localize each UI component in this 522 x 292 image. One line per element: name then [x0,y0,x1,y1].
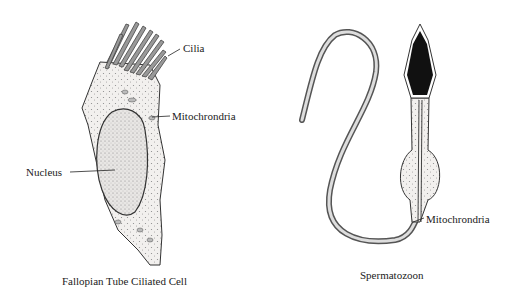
diagram-artwork [0,0,522,292]
label-mitochondria-cell: Mitochrondria [172,111,236,122]
ciliated-cell-drawing [70,22,180,265]
label-nucleus: Nucleus [26,167,62,178]
caption-ciliated-cell: Fallopian Tube Ciliated Cell [62,276,187,287]
caption-spermatozoon: Spermatozoon [360,270,424,281]
spermatozoon-drawing [302,24,440,241]
label-cilia: Cilia [183,43,204,54]
label-mitochondria-sperm: Mitochrondria [426,214,490,225]
